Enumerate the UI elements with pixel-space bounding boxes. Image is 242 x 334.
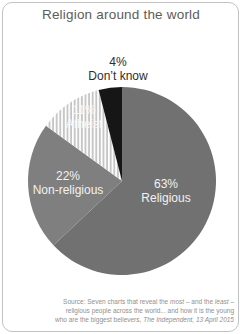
source-line-2: religious people across the world... and… [34,306,234,315]
source-citation: Source: Seven charts that reveal the mos… [34,297,234,324]
chart-card: Religion around the world 63%Religious22… [0,0,242,334]
source-line-3: who are the biggest believers, The Indep… [34,315,234,324]
pie-chart: 63%Religious22%Non-religious11%Atheist4%… [0,0,242,334]
source-line-1: Source: Seven charts that reveal the mos… [34,297,234,306]
pie-label-don-t-know: 4%Don’t know [88,55,148,83]
